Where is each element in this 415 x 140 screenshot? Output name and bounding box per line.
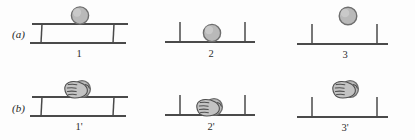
panel-a2: 2: [165, 22, 255, 59]
hand-holding-ball-b1: [65, 81, 91, 98]
panel-a1: 1: [30, 7, 128, 59]
hand-holding-ball-b3: [333, 81, 359, 98]
fist-icon: [197, 99, 220, 116]
hand-holding-ball-b2: [197, 99, 223, 116]
panel-label-a2: 2: [208, 48, 213, 59]
row-tag-b: (b): [12, 102, 25, 115]
ball-a2: [203, 24, 220, 41]
panel-b3: 3': [297, 81, 388, 133]
ball-highlight: [73, 8, 81, 16]
bench-right-leg: [113, 24, 114, 43]
panel-a3: 3: [297, 7, 388, 60]
fist-icon: [333, 81, 356, 98]
figure-container: (a) 1 2: [0, 0, 415, 140]
panel-label-b3: 3': [341, 122, 348, 133]
panel-label-a3: 3: [342, 49, 347, 60]
ball-body: [71, 7, 88, 24]
bench-left-leg: [41, 24, 42, 43]
ball-body: [203, 24, 220, 41]
ball-a3: [339, 7, 357, 25]
bench-right-leg: [113, 97, 114, 116]
panel-label-a1: 1: [76, 48, 81, 59]
fist-icon: [65, 81, 88, 98]
panel-label-b2: 2': [207, 121, 214, 132]
panel-label-b1: 1': [75, 121, 82, 132]
ball-highlight: [205, 26, 213, 34]
panel-b2: 2': [165, 95, 255, 132]
panel-b1: 1': [30, 81, 128, 132]
ball-a1: [71, 7, 88, 24]
row-tag-a: (a): [12, 28, 25, 41]
ball-hand-sequence-diagram: (a) 1 2: [0, 0, 415, 140]
bench-left-leg: [41, 97, 42, 116]
ball-highlight: [341, 9, 350, 18]
